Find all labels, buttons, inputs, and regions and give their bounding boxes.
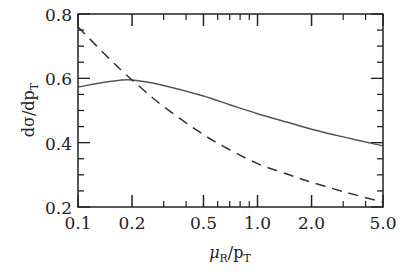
- plot-frame: [78, 14, 383, 207]
- x-tick-label: 0.2: [119, 213, 146, 233]
- dashed-curve: [78, 27, 383, 202]
- tick-labels: 0.10.20.51.02.05.00.20.40.60.8: [45, 5, 397, 233]
- x-tick-label: 5.0: [369, 213, 396, 233]
- plot-curves: [78, 27, 383, 202]
- x-tick-label: 2.0: [298, 213, 325, 233]
- axis-ticks: [78, 14, 383, 207]
- solid-curve: [78, 80, 383, 146]
- y-tick-label: 0.2: [45, 198, 72, 218]
- chart: 0.10.20.51.02.05.00.20.40.60.8 dσ/dpT μR…: [0, 0, 406, 272]
- y-tick-label: 0.6: [45, 69, 72, 89]
- y-tick-label: 0.4: [45, 134, 72, 154]
- y-tick-label: 0.8: [45, 5, 72, 25]
- x-tick-label: 1.0: [244, 213, 271, 233]
- y-axis-label: dσ/dpT: [19, 82, 41, 137]
- x-axis-label: μR/pT: [209, 243, 251, 265]
- x-tick-label: 0.5: [190, 213, 217, 233]
